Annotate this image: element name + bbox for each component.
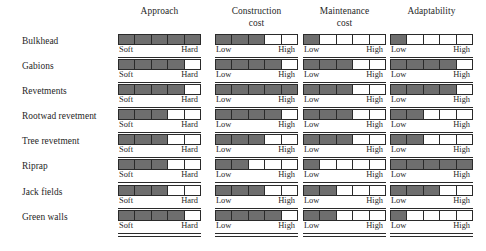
scale-rule bbox=[215, 233, 298, 234]
rating-cell-maintenance_cost-0: LowHigh bbox=[303, 34, 386, 58]
rating-segment bbox=[440, 85, 456, 94]
rating-bar bbox=[118, 134, 201, 145]
scale-axis: LowHigh bbox=[303, 146, 386, 158]
rating-segment bbox=[119, 135, 135, 144]
rating-bar bbox=[390, 109, 473, 120]
scale-high-label: Hard bbox=[181, 221, 198, 231]
scale-high-label: Hard bbox=[181, 95, 198, 105]
footer-rules bbox=[0, 236, 486, 239]
rating-segment bbox=[282, 35, 297, 44]
scale-low-label: Low bbox=[304, 170, 319, 180]
scale-low-label: Low bbox=[391, 45, 406, 55]
scale-rule bbox=[303, 132, 386, 133]
scale-low-label: Soft bbox=[119, 95, 133, 105]
scale-high-label: High bbox=[278, 170, 295, 180]
rating-segment bbox=[353, 211, 369, 220]
scale-low-label: Soft bbox=[119, 170, 133, 180]
rating-segment bbox=[370, 35, 385, 44]
rating-segment bbox=[304, 160, 320, 169]
rating-cell-construction_cost-5: LowHigh bbox=[215, 159, 298, 183]
rating-segment bbox=[320, 60, 336, 69]
scale-low-label: Low bbox=[304, 145, 319, 155]
scale-high-label: High bbox=[278, 196, 295, 206]
rating-segment bbox=[119, 110, 135, 119]
scale-axis: LowHigh bbox=[390, 171, 473, 183]
rating-segment bbox=[216, 60, 232, 69]
scale-low-label: Low bbox=[391, 70, 406, 80]
rating-segment bbox=[457, 85, 472, 94]
scale-axis: LowHigh bbox=[303, 96, 386, 108]
rating-segment bbox=[440, 160, 456, 169]
rating-cell-maintenance_cost-6: LowHigh bbox=[303, 185, 386, 209]
scale-rule bbox=[118, 208, 201, 209]
rating-bar bbox=[118, 59, 201, 70]
rating-segment bbox=[353, 160, 369, 169]
rating-segment bbox=[320, 135, 336, 144]
rating-bar bbox=[215, 185, 298, 196]
rating-segment bbox=[135, 160, 151, 169]
rating-cell-maintenance_cost-1: LowHigh bbox=[303, 59, 386, 83]
scale-high-label: High bbox=[453, 95, 470, 105]
scale-high-label: Hard bbox=[181, 196, 198, 206]
scale-high-label: Hard bbox=[181, 170, 198, 180]
rating-segment bbox=[320, 110, 336, 119]
rating-segment bbox=[265, 160, 281, 169]
scale-axis: LowHigh bbox=[215, 222, 298, 234]
rating-cell-approach-4: SoftHard bbox=[118, 134, 201, 158]
table-row: RevetmentsSoftHardLowHighLowHighLowHigh bbox=[0, 84, 486, 109]
scale-rule bbox=[303, 233, 386, 234]
scale-rule bbox=[390, 208, 473, 209]
rating-segment bbox=[457, 211, 472, 220]
rating-segment bbox=[391, 85, 407, 94]
scale-high-label: High bbox=[366, 120, 383, 130]
scale-axis: LowHigh bbox=[215, 171, 298, 183]
scale-rule bbox=[390, 157, 473, 158]
rating-segment bbox=[152, 60, 168, 69]
rating-segment bbox=[249, 211, 265, 220]
rating-bar bbox=[118, 210, 201, 221]
rating-segment bbox=[152, 135, 168, 144]
rating-segment bbox=[407, 110, 423, 119]
column-header-line1: Maintenance bbox=[320, 6, 370, 16]
rating-segment bbox=[282, 85, 297, 94]
scale-low-label: Low bbox=[216, 170, 231, 180]
scale-rule bbox=[303, 182, 386, 183]
rating-segment bbox=[135, 110, 151, 119]
row-label-3: Rootwad revetment bbox=[22, 110, 118, 122]
rating-segment bbox=[337, 35, 353, 44]
scale-high-label: High bbox=[453, 196, 470, 206]
scale-high-label: High bbox=[453, 221, 470, 231]
rating-bar bbox=[215, 159, 298, 170]
rating-segment bbox=[440, 211, 456, 220]
scale-axis: LowHigh bbox=[390, 46, 473, 58]
rating-cell-adaptability-0: LowHigh bbox=[390, 34, 473, 58]
rating-segment bbox=[304, 211, 320, 220]
rating-segment bbox=[135, 135, 151, 144]
rating-segment bbox=[265, 186, 281, 195]
scale-rule bbox=[118, 233, 201, 234]
rating-segment bbox=[353, 186, 369, 195]
rating-bar bbox=[390, 210, 473, 221]
scale-low-label: Low bbox=[391, 145, 406, 155]
rating-segment bbox=[185, 85, 200, 94]
rating-segment bbox=[185, 186, 200, 195]
scale-rule bbox=[215, 57, 298, 58]
rating-segment bbox=[249, 160, 265, 169]
scale-rule bbox=[215, 208, 298, 209]
rating-segment bbox=[440, 60, 456, 69]
scale-rule bbox=[303, 82, 386, 83]
rating-segment bbox=[391, 110, 407, 119]
scale-axis: LowHigh bbox=[215, 96, 298, 108]
rating-cell-approach-7: SoftHard bbox=[118, 210, 201, 234]
rating-segment bbox=[370, 85, 385, 94]
scale-low-label: Low bbox=[391, 221, 406, 231]
rating-bar bbox=[303, 210, 386, 221]
scale-rule bbox=[118, 107, 201, 108]
rating-segment bbox=[232, 110, 248, 119]
scale-axis: SoftHard bbox=[118, 71, 201, 83]
rating-segment bbox=[232, 186, 248, 195]
scale-axis: LowHigh bbox=[215, 197, 298, 209]
rating-segment bbox=[216, 135, 232, 144]
rating-segment bbox=[391, 160, 407, 169]
table-row: Jack fieldsSoftHardLowHighLowHighLowHigh bbox=[0, 185, 486, 210]
